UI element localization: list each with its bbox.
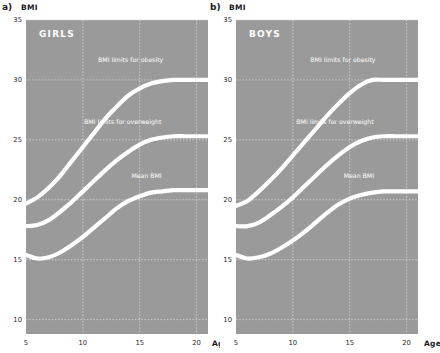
panel-girls-svg: a) BMI 1015202530355101520GIRLSBMI limit…	[0, 0, 220, 353]
plot-title-girls: GIRLS	[39, 29, 75, 39]
panel-boys-svg: b) BMI 1015202530355101520BOYSBMI limits…	[208, 0, 440, 353]
panel-boys: b) BMI 1015202530355101520BOYSBMI limits…	[208, 0, 440, 353]
y-tick-label-10: 10	[223, 316, 232, 324]
bmi-reference-figure: a) BMI 1015202530355101520GIRLSBMI limit…	[0, 0, 440, 353]
plot-title-boys: BOYS	[249, 29, 281, 39]
y-tick-label-25: 25	[223, 136, 232, 144]
x-axis-title-b: Age	[424, 339, 440, 348]
x-tick-label-20: 20	[402, 339, 411, 347]
y-tick-label-35: 35	[13, 16, 22, 24]
x-tick-label-5: 5	[24, 339, 28, 347]
panel-letter-b: b)	[210, 2, 221, 12]
x-tick-label-20: 20	[192, 339, 201, 347]
y-tick-label-35: 35	[223, 16, 232, 24]
y-axis-title-a: BMI	[21, 3, 38, 12]
x-tick-label-10: 10	[289, 339, 298, 347]
plot-area-boys: 1015202530355101520BOYSBMI limits for ob…	[223, 16, 418, 347]
y-tick-label-20: 20	[13, 196, 22, 204]
y-axis-title-b: BMI	[229, 3, 246, 12]
plot-background-girls	[26, 20, 208, 334]
x-tick-label-15: 15	[345, 339, 354, 347]
plot-area-girls: 1015202530355101520GIRLSBMI limits for o…	[13, 16, 208, 347]
annotation-2-girls: Mean BMI	[131, 172, 161, 179]
annotation-1-boys: BMI limits for overweight	[296, 118, 374, 126]
annotation-2-boys: Mean BMI	[344, 172, 374, 179]
x-tick-label-15: 15	[135, 339, 144, 347]
y-tick-label-10: 10	[13, 316, 22, 324]
x-tick-label-5: 5	[234, 339, 238, 347]
plot-background-boys	[236, 20, 418, 334]
x-tick-label-10: 10	[79, 339, 88, 347]
y-tick-label-30: 30	[223, 76, 232, 84]
y-tick-label-15: 15	[13, 256, 22, 264]
y-tick-label-20: 20	[223, 196, 232, 204]
y-tick-label-30: 30	[13, 76, 22, 84]
panel-letter-a: a)	[2, 2, 12, 12]
annotation-0-girls: BMI limits for obesity	[98, 56, 164, 64]
annotation-0-boys: BMI limits for obesity	[310, 56, 376, 64]
panel-girls: a) BMI 1015202530355101520GIRLSBMI limit…	[0, 0, 220, 353]
y-tick-label-25: 25	[13, 136, 22, 144]
y-tick-label-15: 15	[223, 256, 232, 264]
annotation-1-girls: BMI limits for overweight	[84, 118, 162, 126]
